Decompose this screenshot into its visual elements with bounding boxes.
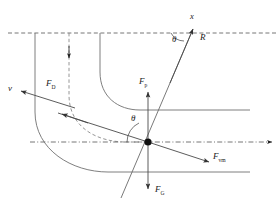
drag-force-label: FD (46, 79, 56, 90)
gravity-force-label: FG (155, 185, 165, 196)
diagram-canvas (0, 0, 279, 212)
theta-top-label: θ (172, 35, 176, 44)
virtual-mass-force-vector (148, 142, 209, 162)
pressure-force-label: Fp (139, 77, 147, 88)
particle-dot (144, 138, 151, 145)
theta-center-label: θ (131, 114, 135, 123)
radius-label: R (200, 33, 206, 42)
drag-force-subscript: D (52, 84, 56, 90)
force-diagram-figure: v FD Fp Fvm FG R x θ θ (0, 0, 279, 212)
virtual-mass-force-subscript: vm (219, 157, 226, 163)
velocity-label: v (8, 84, 12, 93)
drag-force-vector-arrow (62, 114, 88, 123)
velocity-vector (21, 91, 75, 108)
x-axis-label: x (190, 12, 194, 21)
theta-arc-center (127, 123, 139, 142)
streamline-dashed-through-particle (69, 33, 148, 142)
gravity-force-subscript: G (161, 190, 165, 196)
virtual-mass-force-label: Fvm (213, 152, 226, 163)
pressure-force-subscript: p (145, 82, 148, 88)
